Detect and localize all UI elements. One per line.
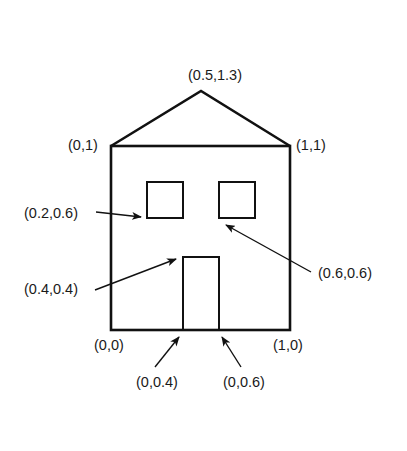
arrow-door-top <box>95 259 176 290</box>
window-right <box>219 182 255 218</box>
label-bottom-right: (1,0) <box>273 337 303 353</box>
house-body <box>111 146 290 330</box>
label-top-left: (0,1) <box>68 137 98 153</box>
arrow-door-left <box>155 337 179 367</box>
label-window-left: (0.2,0.6) <box>24 205 78 221</box>
roof <box>111 91 290 146</box>
label-door-top: (0.4,0.4) <box>24 281 78 297</box>
label-top-right: (1,1) <box>296 137 326 153</box>
house-coordinate-diagram: (0.5,1.3) (0,1) (1,1) (0.2,0.6) (0.6,0.6… <box>0 0 407 451</box>
label-door-left: (0,0.4) <box>136 374 178 390</box>
arrow-window-left <box>96 212 141 217</box>
door <box>183 257 219 330</box>
arrow-window-right <box>226 225 311 272</box>
label-window-right: (0.6,0.6) <box>318 265 372 281</box>
window-left <box>147 182 183 218</box>
label-peak: (0.5,1.3) <box>188 67 242 83</box>
arrow-door-right <box>222 337 241 367</box>
label-bottom-left: (0,0) <box>94 337 124 353</box>
label-door-right: (0,0.6) <box>223 374 265 390</box>
